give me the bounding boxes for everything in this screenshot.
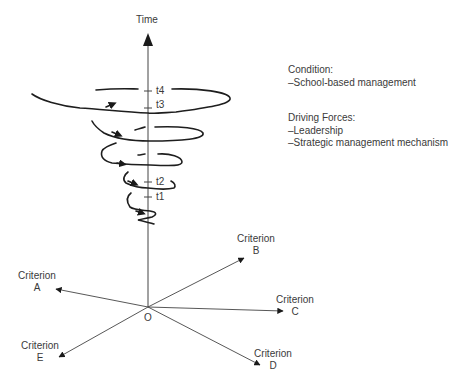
driving-forces-legend: Driving Forces: –Leadership –Strategic m… <box>288 112 448 150</box>
criterion-e-label: Criterion E <box>10 340 70 364</box>
origin-label: O <box>144 312 152 324</box>
criterion-c-line1: Criterion <box>265 294 325 306</box>
development-spiral <box>32 89 230 224</box>
criterion-c-line2: C <box>265 306 325 318</box>
criterion-a-line1: Criterion <box>7 270 67 282</box>
condition-item: –School-based management <box>288 77 416 90</box>
time-axis-arrow-icon <box>143 33 153 46</box>
time-axis-label: Time <box>136 14 158 26</box>
forces-heading: Driving Forces: <box>288 112 448 125</box>
tick-label-t3: t3 <box>156 99 164 111</box>
criterion-d-line2: D <box>243 360 303 372</box>
criterion-b-label: Criterion B <box>226 233 286 257</box>
diagram-graphics <box>0 0 476 386</box>
tick-label-t2: t2 <box>156 176 164 188</box>
axis-criterion-a <box>56 289 148 307</box>
criterion-e-line2: E <box>10 352 70 364</box>
tick-label-t4: t4 <box>156 85 164 97</box>
criterion-d-line1: Criterion <box>243 348 303 360</box>
criterion-a-line2: A <box>7 282 67 294</box>
criterion-b-line2: B <box>226 245 286 257</box>
tick-label-t1: t1 <box>156 191 164 203</box>
criterion-b-line1: Criterion <box>226 233 286 245</box>
condition-legend: Condition: –School-based management <box>288 64 416 89</box>
criterion-a-label: Criterion A <box>7 270 67 294</box>
axis-criterion-e <box>59 307 148 357</box>
criterion-c-label: Criterion C <box>265 294 325 318</box>
time-axis <box>143 33 153 307</box>
axis-criterion-b <box>148 258 244 307</box>
forces-item: –Strategic management mechanism <box>288 137 448 150</box>
forces-item: –Leadership <box>288 125 448 138</box>
criterion-d-label: Criterion D <box>243 348 303 372</box>
axis-criterion-c <box>148 307 283 311</box>
condition-heading: Condition: <box>288 64 416 77</box>
criterion-e-line1: Criterion <box>10 340 70 352</box>
diagram-canvas: Time t4 t3 t2 t1 O Criterion A Criterion… <box>0 0 476 386</box>
